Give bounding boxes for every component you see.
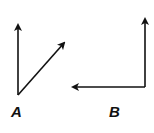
figure-b — [73, 19, 145, 87]
figure-a — [18, 25, 64, 95]
vector-diagram — [0, 0, 154, 133]
figure-a-diagonal-arrow — [18, 43, 64, 95]
figure-b-label: B — [109, 104, 120, 119]
figure-a-label: A — [11, 104, 22, 119]
